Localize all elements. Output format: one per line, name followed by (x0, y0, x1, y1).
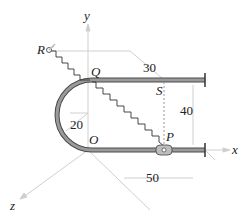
z-axis-label: z (9, 198, 15, 213)
point-q-label: Q (91, 64, 101, 79)
z-axis-arrow-icon (20, 193, 27, 199)
y-axis-arrow-icon (86, 24, 90, 31)
dimension-50: 50 (146, 170, 159, 185)
dimension-30: 30 (143, 60, 156, 75)
dimension-40: 40 (180, 103, 193, 118)
spring-rq (50, 51, 90, 80)
point-r-label: R (36, 42, 45, 57)
point-p-label: P (165, 129, 174, 144)
z-axis (22, 150, 88, 198)
guide-line-diag-p (88, 150, 150, 210)
spring-collar-diagram: y x z R Q S P O 30 40 20 50 (0, 0, 247, 219)
y-axis-label: y (82, 8, 90, 23)
guide-line-diag-end (205, 150, 215, 160)
point-s-label: S (156, 83, 163, 98)
spring-qp (92, 82, 164, 146)
x-axis-label: x (231, 142, 238, 157)
x-axis-arrow-icon (223, 148, 230, 152)
dimension-20: 20 (70, 117, 83, 132)
collar-p-icon (156, 145, 172, 155)
origin-label: O (89, 132, 99, 147)
coordinate-axes (20, 24, 230, 210)
